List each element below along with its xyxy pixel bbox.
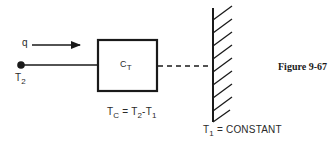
capacitor-label: CT bbox=[120, 59, 132, 72]
heat-flow-label: q bbox=[22, 37, 28, 48]
eq-t1-sub: 1 bbox=[152, 111, 157, 120]
temperature-difference-equation: TC = T2-T1 bbox=[107, 106, 157, 120]
constant-temperature-label: T1 = CONSTANT bbox=[203, 124, 282, 138]
thermal-circuit-diagram bbox=[0, 0, 333, 149]
ground-text: = CONSTANT bbox=[214, 124, 282, 135]
figure-caption: Figure 9-67 bbox=[278, 61, 327, 72]
capacitor-subscript: T bbox=[127, 63, 132, 72]
eq-equals: = bbox=[119, 106, 131, 117]
capacitor-symbol: C bbox=[120, 59, 127, 69]
wall-hatching bbox=[213, 6, 232, 122]
source-node-label: T2 bbox=[15, 72, 26, 86]
source-node-subscript: 2 bbox=[21, 77, 26, 86]
